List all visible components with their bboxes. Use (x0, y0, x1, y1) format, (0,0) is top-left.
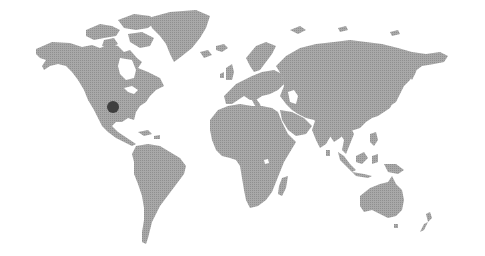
asia (276, 26, 448, 156)
north-america (36, 14, 164, 146)
world-map-svg (0, 0, 485, 256)
world-map: Texas, United States (0, 0, 485, 256)
new-zealand (420, 212, 432, 232)
greenland (148, 10, 212, 62)
australia (360, 176, 404, 228)
europe (216, 42, 284, 110)
south-america (132, 144, 186, 244)
location-marker-icon[interactable] (107, 101, 119, 113)
